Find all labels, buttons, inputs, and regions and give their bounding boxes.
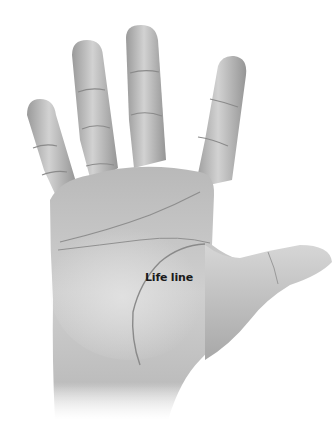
finger-ring [72, 40, 118, 185]
wrist-fade [40, 385, 200, 435]
hand-illustration [0, 0, 336, 445]
life-line-label: Life line [145, 271, 193, 284]
finger-index [195, 56, 246, 188]
thumb [205, 245, 332, 360]
palm-figure: Life line [0, 0, 336, 445]
finger-little [27, 99, 76, 196]
finger-middle [126, 25, 166, 168]
